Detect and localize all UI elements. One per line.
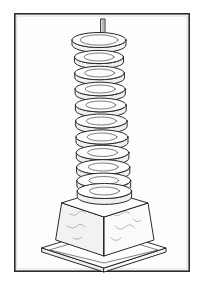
- disc-10: [77, 184, 131, 205]
- figure-canvas: Stacked disc insulator on tapered wooden…: [0, 0, 204, 288]
- insulator-disc-stack: [75, 50, 132, 204]
- illustration-root: Stacked disc insulator on tapered wooden…: [0, 0, 204, 288]
- top-cap-disc: [72, 33, 126, 53]
